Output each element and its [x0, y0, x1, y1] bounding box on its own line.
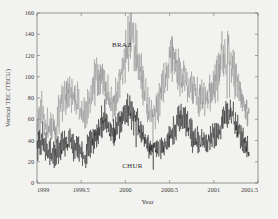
x-axis-tick-labels: 19991999.520002000.520012001.5	[37, 186, 258, 193]
y-tick-label: 60	[28, 115, 34, 122]
axis-frame	[37, 13, 258, 183]
vertical-tec-plot: 19991999.520002000.520012001.5 020406080…	[0, 0, 278, 219]
x-axis-ticks	[37, 13, 258, 183]
x-tick-label: 2000.5	[161, 186, 178, 193]
series-annotation-chur: CHUR	[122, 162, 143, 170]
x-tick-label: 2001	[208, 186, 220, 193]
y-tick-label: 100	[25, 73, 34, 80]
y-axis-tick-labels: 020406080100120140160	[25, 9, 34, 186]
y-tick-label: 120	[25, 52, 34, 59]
x-axis-title: Year	[141, 198, 154, 205]
x-tick-label: 2000	[119, 186, 131, 193]
y-tick-label: 0	[31, 179, 34, 186]
x-tick-label: 1999.5	[73, 186, 90, 193]
y-axis-ticks	[37, 13, 258, 183]
data-series-group	[37, 13, 249, 170]
chart-figure: 19991999.520002000.520012001.5 020406080…	[0, 0, 278, 219]
series-annotation-braz: BRAZ	[112, 41, 132, 49]
plot-axes	[37, 13, 258, 183]
x-tick-label: 1999	[37, 186, 49, 193]
y-tick-label: 140	[25, 30, 34, 37]
y-tick-label: 20	[28, 158, 34, 165]
y-axis-title: Vertical TEC (TECU)	[4, 69, 12, 127]
y-tick-label: 160	[25, 9, 34, 16]
y-tick-label: 80	[28, 94, 34, 101]
x-tick-label: 2001.5	[241, 186, 258, 193]
y-tick-label: 40	[28, 137, 34, 144]
